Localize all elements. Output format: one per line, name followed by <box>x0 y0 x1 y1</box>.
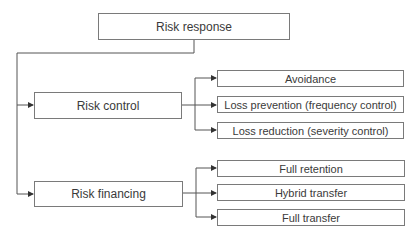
node-hybrid-transfer: Hybrid transfer <box>217 184 405 201</box>
node-label: Avoidance <box>285 73 336 85</box>
node-label: Risk financing <box>71 187 146 201</box>
node-label: Loss reduction (severity control) <box>233 125 389 137</box>
node-label: Risk control <box>77 99 140 113</box>
node-full-retention: Full retention <box>217 160 405 177</box>
node-risk-control: Risk control <box>34 92 182 119</box>
root-node-risk-response: Risk response <box>98 13 290 40</box>
node-label: Risk response <box>156 20 232 34</box>
node-risk-financing: Risk financing <box>34 181 183 207</box>
node-label: Loss prevention (frequency control) <box>224 99 396 111</box>
node-full-transfer: Full transfer <box>217 209 405 226</box>
node-label: Hybrid transfer <box>275 187 347 199</box>
node-avoidance: Avoidance <box>217 70 404 87</box>
node-label: Full transfer <box>282 212 340 224</box>
node-loss-prevention: Loss prevention (frequency control) <box>217 96 404 113</box>
node-label: Full retention <box>279 163 343 175</box>
node-loss-reduction: Loss reduction (severity control) <box>217 122 404 139</box>
